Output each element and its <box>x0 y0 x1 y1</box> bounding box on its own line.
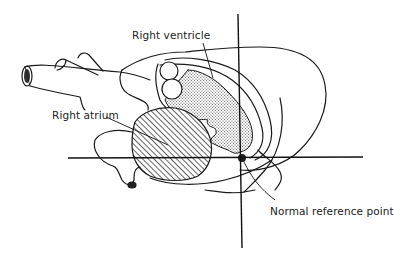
valve-circle-lower <box>162 79 182 99</box>
great-vessel <box>22 65 150 110</box>
upper-vessels <box>55 53 103 75</box>
label-right-atrium: Right atrium <box>52 109 119 121</box>
horizontal-axis <box>68 157 363 158</box>
valve-circle-upper <box>160 62 178 80</box>
label-reference-point: Normal reference point <box>270 205 394 217</box>
label-right-ventricle: Right ventricle <box>132 29 210 41</box>
